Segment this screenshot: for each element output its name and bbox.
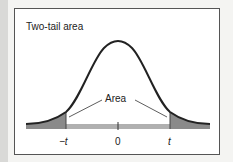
figure-title: Two-tail area xyxy=(26,22,83,32)
tick-label-neg-t: −t xyxy=(59,137,68,147)
bell-curve xyxy=(26,41,210,124)
area-label: Area xyxy=(105,94,126,104)
tick-label-t: t xyxy=(168,137,171,147)
tick-label-zero: 0 xyxy=(115,137,121,147)
